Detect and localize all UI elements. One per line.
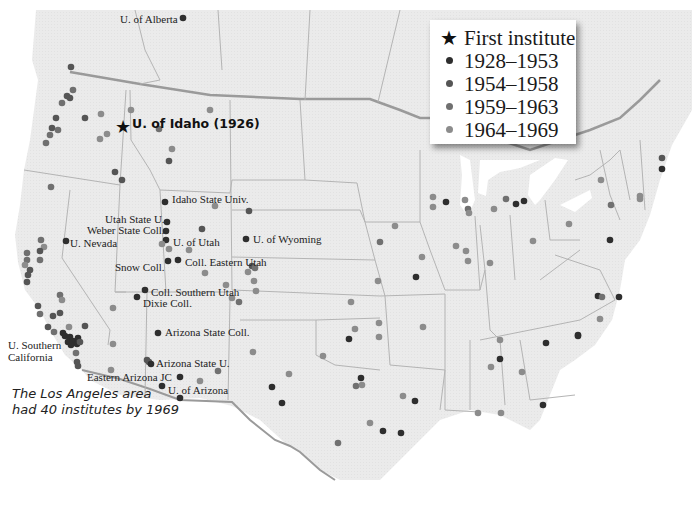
institute-dot xyxy=(430,204,437,211)
legend-item-1954-1958: 1954–1958 xyxy=(438,72,576,95)
institute-dot xyxy=(57,310,64,317)
institute-dot xyxy=(491,206,498,213)
institute-dot xyxy=(598,177,605,184)
dot-icon xyxy=(446,57,453,64)
institute-dot xyxy=(597,316,604,323)
institute-dot xyxy=(202,270,209,277)
institute-dot xyxy=(376,320,383,327)
institute-dot xyxy=(359,382,366,389)
place-label: U. Nevada xyxy=(70,237,117,249)
institute-dot xyxy=(521,198,528,205)
institute-dot xyxy=(82,323,89,330)
institute-dot xyxy=(175,257,182,264)
institute-dot xyxy=(25,272,32,279)
institute-dot xyxy=(110,341,117,348)
institute-dot xyxy=(246,208,253,215)
institute-dot xyxy=(367,420,374,427)
institute-dot xyxy=(53,115,60,122)
institute-dot xyxy=(608,202,615,209)
institute-dot xyxy=(245,269,252,276)
institute-dot xyxy=(475,410,482,417)
institute-dot xyxy=(38,237,45,244)
institute-dot xyxy=(543,340,550,347)
map-canvas: ★ xyxy=(0,0,692,513)
institute-dot xyxy=(177,374,184,381)
institute-dot xyxy=(377,239,384,246)
institute-dot xyxy=(575,333,582,340)
legend-label: 1954–1958 xyxy=(464,73,559,95)
place-label: Coll. Eastern Utah xyxy=(185,256,267,268)
institute-dot xyxy=(37,248,44,255)
institute-dot xyxy=(77,339,84,346)
institute-dot xyxy=(43,140,50,147)
institute-dot xyxy=(243,236,250,243)
institute-dot xyxy=(70,87,77,94)
legend: ★ First institute 1928–1953 1954–1958 19… xyxy=(430,20,576,144)
institute-dot xyxy=(250,349,257,356)
institute-dot xyxy=(420,324,427,331)
institute-dot xyxy=(462,197,469,204)
institute-dot xyxy=(155,330,162,337)
institute-dot xyxy=(392,223,399,230)
legend-item-1928-1953: 1928–1953 xyxy=(438,49,576,72)
institute-dot xyxy=(98,111,105,118)
place-label: Idaho State Univ. xyxy=(172,193,249,205)
place-label: U. of Utah xyxy=(173,236,220,248)
institute-dot xyxy=(24,250,31,257)
institute-dot xyxy=(398,430,405,437)
institute-dot xyxy=(55,127,62,134)
institute-dot xyxy=(352,326,359,333)
dot-icon xyxy=(446,126,453,133)
institute-dot xyxy=(413,274,420,281)
institute-dot xyxy=(497,337,504,344)
institute-dot xyxy=(443,199,450,206)
institute-dot xyxy=(165,258,172,265)
institute-dot xyxy=(67,95,74,102)
legend-label: 1928–1953 xyxy=(464,50,559,72)
legend-item-first-institute: ★ First institute xyxy=(438,26,576,49)
legend-label: 1964–1969 xyxy=(464,119,559,141)
legend-label: First institute xyxy=(464,27,575,49)
legend-item-1959-1963: 1959–1963 xyxy=(438,95,576,118)
annotation-line-2: had 40 institutes by 1969 xyxy=(12,402,179,418)
institute-dot xyxy=(463,248,470,255)
institute-dot xyxy=(159,241,166,248)
institute-dot xyxy=(134,294,141,301)
institute-dot xyxy=(430,194,437,201)
institute-dot xyxy=(335,440,342,447)
institute-dot xyxy=(97,136,104,143)
institute-dot xyxy=(400,393,407,400)
place-label: California xyxy=(8,351,53,363)
institute-dot xyxy=(166,158,173,165)
institute-dot xyxy=(104,131,111,138)
place-label: Eastern Arizona JC xyxy=(87,371,172,383)
institute-dot xyxy=(465,258,472,265)
institute-dot xyxy=(607,237,614,244)
institute-dot xyxy=(498,410,505,417)
institute-dot xyxy=(637,193,644,200)
institute-dot xyxy=(47,132,54,139)
institute-dot xyxy=(207,107,214,114)
institute-dot xyxy=(66,324,73,331)
institute-dot xyxy=(22,262,29,269)
institute-dot xyxy=(376,334,383,341)
dot-icon xyxy=(446,103,453,110)
place-label: Weber State Coll. xyxy=(87,224,165,236)
legend-item-1964-1969: 1964–1969 xyxy=(438,118,576,141)
institute-dot xyxy=(279,400,286,407)
institute-dot xyxy=(48,184,55,191)
institute-dot xyxy=(50,313,57,320)
institute-dot xyxy=(540,402,547,409)
institute-dot xyxy=(49,125,56,132)
institute-dot xyxy=(180,15,187,22)
institute-dot xyxy=(128,107,135,114)
institute-dot xyxy=(24,279,31,286)
institute-dot xyxy=(419,254,426,261)
institute-dot xyxy=(110,305,117,312)
institute-dot xyxy=(236,299,243,306)
institute-dot xyxy=(519,369,526,376)
institute-dot xyxy=(513,201,520,208)
institute-dot xyxy=(659,155,666,162)
institute-dot xyxy=(320,353,327,360)
institute-dot xyxy=(37,311,44,318)
